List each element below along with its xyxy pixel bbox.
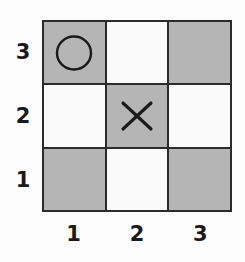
grid-figure: 3 2 1 1 2 3 (0, 0, 245, 262)
y-axis-tick-3: 3 (8, 20, 38, 84)
grid-cell-3-3[interactable] (169, 22, 230, 83)
grid-cell-3-2[interactable] (169, 85, 230, 146)
grid-cell-2-3[interactable] (107, 22, 168, 83)
grid-cell-2-1[interactable] (107, 149, 168, 210)
y-axis-tick-1: 1 (8, 148, 38, 212)
grid-cell-2-2[interactable] (107, 85, 168, 146)
y-axis-tick-labels: 3 2 1 (8, 20, 38, 212)
grid-cell-1-1[interactable] (44, 149, 105, 210)
cross-icon (118, 97, 156, 135)
y-axis-tick-2: 2 (8, 84, 38, 148)
circle-icon (54, 33, 94, 73)
grid-cell-1-2[interactable] (44, 85, 105, 146)
grid-cell-1-3[interactable] (44, 22, 105, 83)
game-grid (42, 20, 232, 212)
x-axis-tick-labels: 1 2 3 (42, 214, 232, 254)
x-axis-tick-2: 2 (105, 214, 168, 254)
grid-cell-3-1[interactable] (169, 149, 230, 210)
x-axis-tick-1: 1 (42, 214, 105, 254)
x-axis-tick-3: 3 (169, 214, 232, 254)
